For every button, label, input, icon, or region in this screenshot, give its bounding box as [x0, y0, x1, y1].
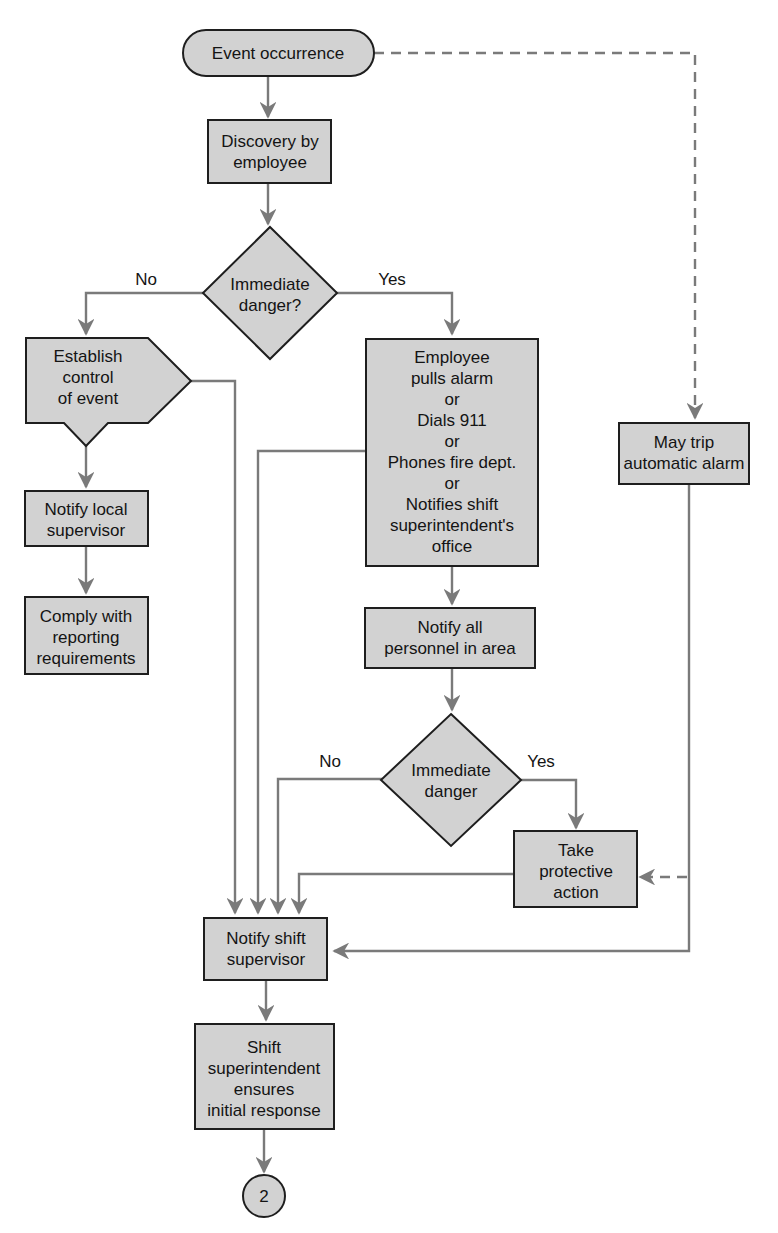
- node-label-line: Phones fire dept.: [388, 453, 517, 472]
- node-label-line: Notify all: [417, 618, 482, 637]
- node-employee-pulls-alarm: Employee pulls alarm or Dials 911 or Pho…: [366, 339, 538, 566]
- edge-decision2-yes: [521, 780, 576, 828]
- node-label-line: or: [444, 390, 459, 409]
- edge-establish-notifyshift: [191, 381, 235, 913]
- node-label-line: Immediate: [411, 761, 490, 780]
- edge-decision2-no: [278, 779, 382, 913]
- node-label-line: Notifies shift: [406, 495, 499, 514]
- node-offpage-connector-2: 2: [243, 1175, 285, 1217]
- node-label-line: Immediate: [230, 275, 309, 294]
- node-discovery-by-employee: Discovery by employee: [208, 120, 331, 183]
- node-establish-control: Establish control of event: [26, 338, 191, 446]
- node-decision-immediate-danger-1: Immediate danger?: [203, 227, 337, 359]
- node-label-line: action: [553, 883, 598, 902]
- node-label-line: Discovery by: [221, 132, 319, 151]
- node-label-line: of event: [58, 389, 119, 408]
- node-label-line: pulls alarm: [411, 369, 493, 388]
- node-label-line: Notify shift: [226, 929, 306, 948]
- node-label-line: danger?: [239, 296, 301, 315]
- node-label: Event occurrence: [212, 44, 344, 63]
- process-shape: [204, 918, 327, 980]
- node-label-line: automatic alarm: [624, 454, 745, 473]
- node-label-line: Establish: [54, 347, 123, 366]
- process-shape: [365, 608, 535, 668]
- node-label-line: office: [432, 537, 472, 556]
- node-notify-local-supervisor: Notify local supervisor: [25, 491, 148, 546]
- node-label-line: Take: [558, 841, 594, 860]
- node-label-line: Comply with: [40, 607, 133, 626]
- decision1-no-label: No: [135, 270, 157, 289]
- node-label-line: or: [444, 474, 459, 493]
- node-label-line: reporting: [52, 628, 119, 647]
- node-label-line: danger: [425, 782, 478, 801]
- edge-decision1-no: [86, 293, 203, 334]
- node-comply-reporting: Comply with reporting requirements: [25, 597, 148, 674]
- node-label-line: May trip: [654, 433, 714, 452]
- edge-protective-notifyshift: [299, 874, 514, 913]
- node-label-line: superintendent's: [390, 516, 514, 535]
- node-label-line: Shift: [247, 1038, 281, 1057]
- node-shift-superintendent: Shift superintendent ensures initial res…: [195, 1024, 334, 1129]
- node-label-line: initial response: [207, 1101, 320, 1120]
- node-label-line: or: [444, 432, 459, 451]
- node-event-occurrence: Event occurrence: [183, 30, 374, 76]
- decision2-no-label: No: [319, 752, 341, 771]
- flowchart-canvas: No Yes No Yes Event occurrence Discovery…: [0, 0, 778, 1233]
- node-may-trip-automatic-alarm: May trip automatic alarm: [619, 423, 749, 484]
- edge-employee-notifyshift: [258, 451, 366, 913]
- process-shape: [208, 120, 331, 183]
- node-label-line: ensures: [234, 1080, 294, 1099]
- node-label-line: Dials 911: [417, 411, 487, 430]
- node-label: 2: [259, 1187, 268, 1206]
- node-label-line: Employee: [414, 348, 490, 367]
- node-take-protective-action: Take protective action: [514, 831, 637, 907]
- node-label-line: control: [62, 368, 113, 387]
- node-label-line: protective: [539, 862, 613, 881]
- node-label-line: employee: [233, 153, 307, 172]
- node-notify-shift-supervisor: Notify shift supervisor: [204, 918, 327, 980]
- decision1-yes-label: Yes: [378, 270, 406, 289]
- edge-decision1-yes: [336, 293, 452, 334]
- node-label-line: requirements: [36, 649, 135, 668]
- node-label-line: superintendent: [208, 1059, 321, 1078]
- decision-shape: [381, 714, 521, 846]
- node-label-line: supervisor: [227, 950, 306, 969]
- node-decision-immediate-danger-2: Immediate danger: [381, 714, 521, 846]
- decision2-yes-label: Yes: [527, 752, 555, 771]
- node-label-line: Notify local: [44, 500, 127, 519]
- node-label-line: personnel in area: [384, 639, 516, 658]
- node-notify-all-personnel: Notify all personnel in area: [365, 608, 535, 668]
- node-label-line: supervisor: [47, 521, 126, 540]
